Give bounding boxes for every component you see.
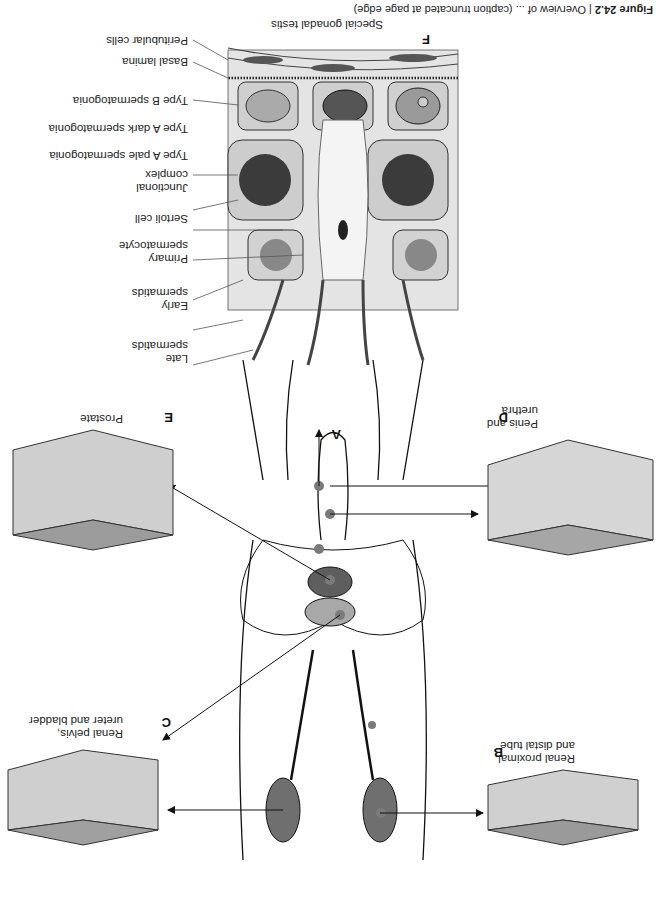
tissue-block-c — [8, 750, 158, 845]
panel-d-label: Penis and urethra — [487, 404, 538, 430]
panel-e-label: Prostate — [80, 412, 123, 425]
figure-page: Figure 24.2 | Overview of ... (caption t… — [0, 0, 663, 920]
urogenital-body-diagram — [0, 0, 663, 920]
panel-b-label: Renal proximal and distal tube — [498, 739, 575, 765]
tissue-block-d — [488, 440, 653, 555]
panel-a-letter: A — [332, 427, 341, 442]
tissue-block-b — [488, 770, 638, 845]
panel-e-letter: E — [164, 410, 173, 425]
tissue-block-e — [13, 430, 173, 550]
panel-c-label: Renal pelvis, ureter and bladder — [29, 714, 123, 740]
panel-c-letter: C — [162, 715, 171, 730]
